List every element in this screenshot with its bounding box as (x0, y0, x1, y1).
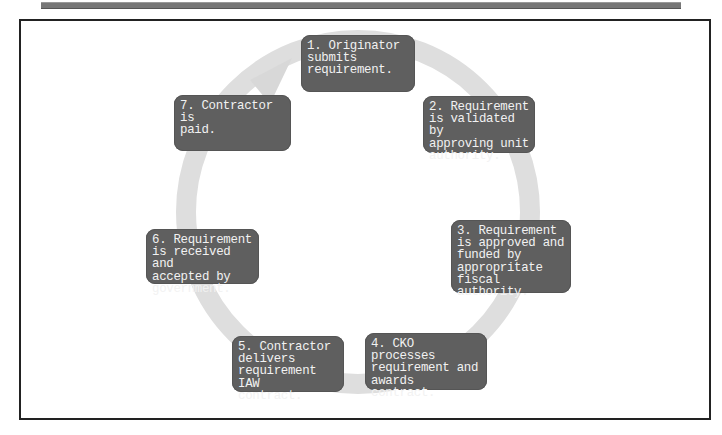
step-1-originator-submits: 1. Originator submits requirement. (301, 35, 415, 92)
step-5-contractor-delivers: 5. Contractor delivers requirement IAW c… (232, 336, 344, 392)
step-7-contractor-paid: 7. Contractor is paid. (174, 95, 291, 151)
step-3-approved-funded: 3. Requirement is approved and funded by… (451, 220, 571, 293)
step-4-cko-processes: 4. CKO processes requirement and awards … (365, 333, 487, 390)
step-6-received-accepted: 6. Requirement is received and accepted … (146, 229, 259, 284)
step-2-validated: 2. Requirement is validated by approving… (423, 96, 535, 153)
